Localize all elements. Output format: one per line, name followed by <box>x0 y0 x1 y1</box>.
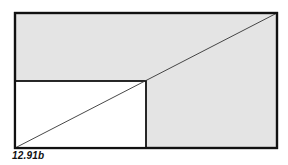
figure-label: 12.91b <box>12 150 44 161</box>
diagram-figure <box>0 0 288 165</box>
